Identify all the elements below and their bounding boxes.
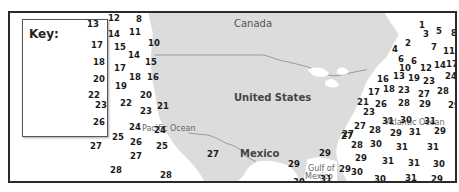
temperature-value: 8 <box>136 15 142 24</box>
temperature-value: 31 <box>382 117 394 126</box>
temperature-value: 29 <box>434 127 446 136</box>
temperature-value: 31 <box>408 159 420 168</box>
temperature-value: 27 <box>130 152 142 161</box>
temperature-value: 30 <box>433 160 445 169</box>
temperature-value: 18 <box>383 85 395 94</box>
temperature-value: 23 <box>140 107 152 116</box>
temperature-value: 31 <box>396 143 408 152</box>
temperature-value: 17 <box>446 60 457 69</box>
temperature-value: 17 <box>368 88 380 97</box>
temperature-value: 31 <box>427 143 439 152</box>
temperature-value: 23 <box>363 108 375 117</box>
temperature-value: 12 <box>108 14 120 23</box>
temperature-value: 31 <box>409 128 421 137</box>
temperature-value: 13 <box>393 72 405 81</box>
key-title: Key: <box>29 27 59 41</box>
temperature-value: 14 <box>128 51 140 60</box>
temperature-value: 26 <box>130 138 142 147</box>
temperature-value: 30 <box>293 178 305 183</box>
temperature-value: 2 <box>405 39 411 48</box>
temperature-value: 7 <box>431 43 437 52</box>
temperature-value: 11 <box>129 28 141 37</box>
temperature-value: 31 <box>424 117 436 126</box>
temperature-value: 30 <box>400 116 412 125</box>
temperature-value: 15 <box>114 43 126 52</box>
temperature-value: 27 <box>90 142 102 151</box>
temperature-value: 28 <box>160 171 172 180</box>
label-united-states: United States <box>234 93 311 103</box>
temperature-value: 27 <box>354 122 366 131</box>
temperature-value: 21 <box>357 98 369 107</box>
temperature-value: 29 <box>448 101 457 110</box>
temperature-value: 18 <box>129 73 141 82</box>
temperature-value: 29 <box>419 100 431 109</box>
temperature-value: 5 <box>436 27 442 36</box>
temperature-value: 30 <box>374 175 386 183</box>
temperature-value: 30 <box>351 168 363 177</box>
temperature-value: 14 <box>108 30 120 39</box>
temperature-value: 29 <box>319 149 331 158</box>
temperature-value: 17 <box>114 64 126 73</box>
temperature-value: 16 <box>377 75 389 84</box>
temperature-value: 26 <box>375 100 387 109</box>
temperature-value: 16 <box>147 73 159 82</box>
temperature-value: 23 <box>423 77 435 86</box>
temperature-value: 29 <box>339 165 351 174</box>
temperature-value: 28 <box>369 126 381 135</box>
temperature-value: 22 <box>88 91 100 100</box>
temperature-value: 4 <box>392 45 398 54</box>
temperature-value: 31 <box>382 157 394 166</box>
temperature-value: 19 <box>115 82 127 91</box>
temperature-value: 29 <box>390 129 402 138</box>
label-canada: Canada <box>234 19 272 29</box>
temperature-value: 28 <box>110 166 122 175</box>
temperature-value: 29 <box>355 154 367 163</box>
label-pacific-ocean: Pacific Ocean <box>142 125 196 133</box>
temperature-value: 31 <box>320 175 332 183</box>
temperature-value: 3 <box>423 30 429 39</box>
temperature-value: 14 <box>434 61 446 70</box>
temperature-value: 17 <box>91 41 103 50</box>
temperature-value: 24 <box>129 123 141 132</box>
temperature-value: 29 <box>288 160 300 169</box>
temperature-value: 22 <box>120 99 132 108</box>
temperature-value: 24 <box>154 126 166 135</box>
temperature-value: 13 <box>87 20 99 29</box>
temperature-value: 27 <box>418 90 430 99</box>
temperature-value: 31 <box>405 174 417 183</box>
temperature-value: 15 <box>145 58 157 67</box>
temperature-value: 30 <box>370 140 382 149</box>
temperature-value: 27 <box>342 130 354 139</box>
temperature-value: 28 <box>398 99 410 108</box>
label-mexico: Mexico <box>240 149 279 159</box>
temperature-value: 11 <box>443 47 455 56</box>
temperature-value: 21 <box>157 102 169 111</box>
temperature-value: 8 <box>451 29 457 38</box>
temperature-value: 20 <box>140 91 152 100</box>
temperature-value: 19 <box>408 74 420 83</box>
temperature-value: 23 <box>398 86 410 95</box>
temperature-value: 23 <box>95 101 107 110</box>
temperature-value: 6 <box>411 57 417 66</box>
temperature-value: 29 <box>431 175 443 183</box>
temperature-value: 25 <box>112 133 124 142</box>
temperature-value: 25 <box>156 142 168 151</box>
temperature-value: 28 <box>437 87 449 96</box>
temperature-value: 24 <box>445 72 457 81</box>
temperature-value: 27 <box>207 150 219 159</box>
temperature-value: 28 <box>351 141 363 150</box>
temperature-value: 18 <box>93 58 105 67</box>
temperature-value: 26 <box>93 118 105 127</box>
temperature-value: 12 <box>420 64 432 73</box>
temperature-value: 20 <box>93 75 105 84</box>
temperature-value: 10 <box>148 39 160 48</box>
map-frame: Key: Canada United States Mexico Pacific… <box>8 11 457 183</box>
